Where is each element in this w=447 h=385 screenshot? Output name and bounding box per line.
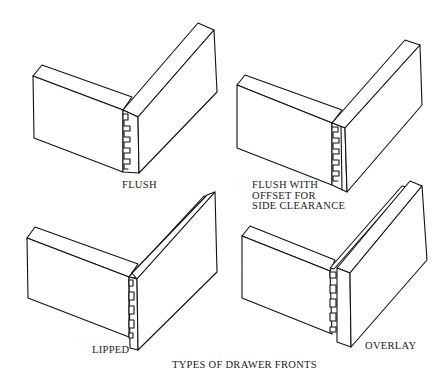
label-flush-offset: FLUSH WITH OFFSET FOR SIDE CLEARANCE (252, 180, 345, 212)
figure-caption: TYPES OF DRAWER FRONTS (172, 360, 317, 371)
label-flush-offset-line-3: SIDE CLEARANCE (252, 201, 345, 212)
label-flush-offset-line-1: FLUSH WITH (252, 180, 345, 191)
label-overlay: OVERLAY (365, 341, 416, 352)
drawer-fronts-diagram: FLUSH FLUSH WITH OFFSET FOR SIDE CLEARAN… (0, 0, 447, 385)
lipped-joint-drawing (27, 192, 217, 350)
label-lipped-line-1: LIPPED (92, 345, 129, 356)
label-overlay-line-1: OVERLAY (365, 341, 416, 352)
label-flush-line-1: FLUSH (122, 180, 157, 191)
flush-offset-joint-drawing (237, 40, 422, 192)
label-lipped: LIPPED (92, 345, 129, 356)
diagram-drawing (0, 0, 447, 385)
label-flush: FLUSH (122, 180, 157, 191)
lipped-front-face (137, 192, 217, 350)
flush-joint-drawing (33, 23, 217, 173)
overlay-front-edge (337, 268, 351, 347)
